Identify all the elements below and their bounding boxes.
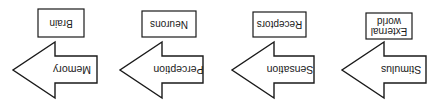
box-label: Brain <box>49 18 72 29</box>
step-memory: MemoryBrain <box>13 9 97 98</box>
step-stimulus: StimulusExternalworld <box>342 13 426 98</box>
diagram-canvas: StimulusExternalworldSensationReceptorsP… <box>0 0 432 112</box>
arrow-label: Perception <box>153 64 203 76</box>
arrow-label: Sensation <box>266 64 313 76</box>
box-label: Neurons <box>150 19 188 30</box>
box-label: Receptors <box>257 19 303 30</box>
diagram-svg: StimulusExternalworldSensationReceptorsP… <box>0 0 432 112</box>
arrow-label: Stimulus <box>381 64 421 76</box>
step-perception: PerceptionNeurons <box>120 11 204 98</box>
step-sensation: SensationReceptors <box>232 12 314 98</box>
arrow-label: Memory <box>52 64 91 76</box>
box-label: world <box>377 16 402 27</box>
